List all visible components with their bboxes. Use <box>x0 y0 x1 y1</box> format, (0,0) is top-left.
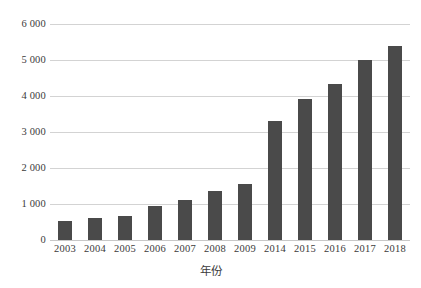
bar <box>358 60 372 240</box>
bar <box>118 216 132 240</box>
bar <box>268 121 282 240</box>
x-axis-title: 年份 <box>0 262 421 278</box>
y-axis-tick-label: 6 000 <box>2 19 46 30</box>
y-axis-tick-label: 2 000 <box>2 163 46 174</box>
y-axis-tick-label: 4 000 <box>2 91 46 102</box>
bar <box>298 99 312 240</box>
bar <box>148 206 162 240</box>
bars-series <box>50 24 410 240</box>
bar <box>328 84 342 240</box>
gridline <box>50 240 410 241</box>
bar <box>208 191 222 240</box>
y-axis-tick-label: 0 <box>2 235 46 246</box>
bar <box>388 46 402 240</box>
bar <box>238 184 252 240</box>
plot-area <box>50 24 410 240</box>
y-axis-tick-label: 5 000 <box>2 55 46 66</box>
y-axis-tick-label: 3 000 <box>2 127 46 138</box>
x-axis-tick-label: 2018 <box>375 244 415 255</box>
bar <box>178 200 192 240</box>
bar <box>88 218 102 240</box>
y-axis-labels: 01 0002 0003 0004 0005 0006 000 <box>0 24 46 240</box>
bar-chart: 01 0002 0003 0004 0005 0006 000 20032004… <box>0 0 421 288</box>
x-axis-labels: 2003200420052006200720082009201420152016… <box>50 244 410 260</box>
y-axis-tick-label: 1 000 <box>2 199 46 210</box>
bar <box>58 221 72 240</box>
